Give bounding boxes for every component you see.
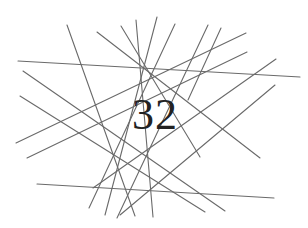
captcha-text: 32 bbox=[124, 90, 186, 140]
captcha-image: 32 bbox=[0, 0, 308, 228]
noise-line bbox=[188, 28, 221, 100]
noise-line bbox=[37, 184, 274, 198]
